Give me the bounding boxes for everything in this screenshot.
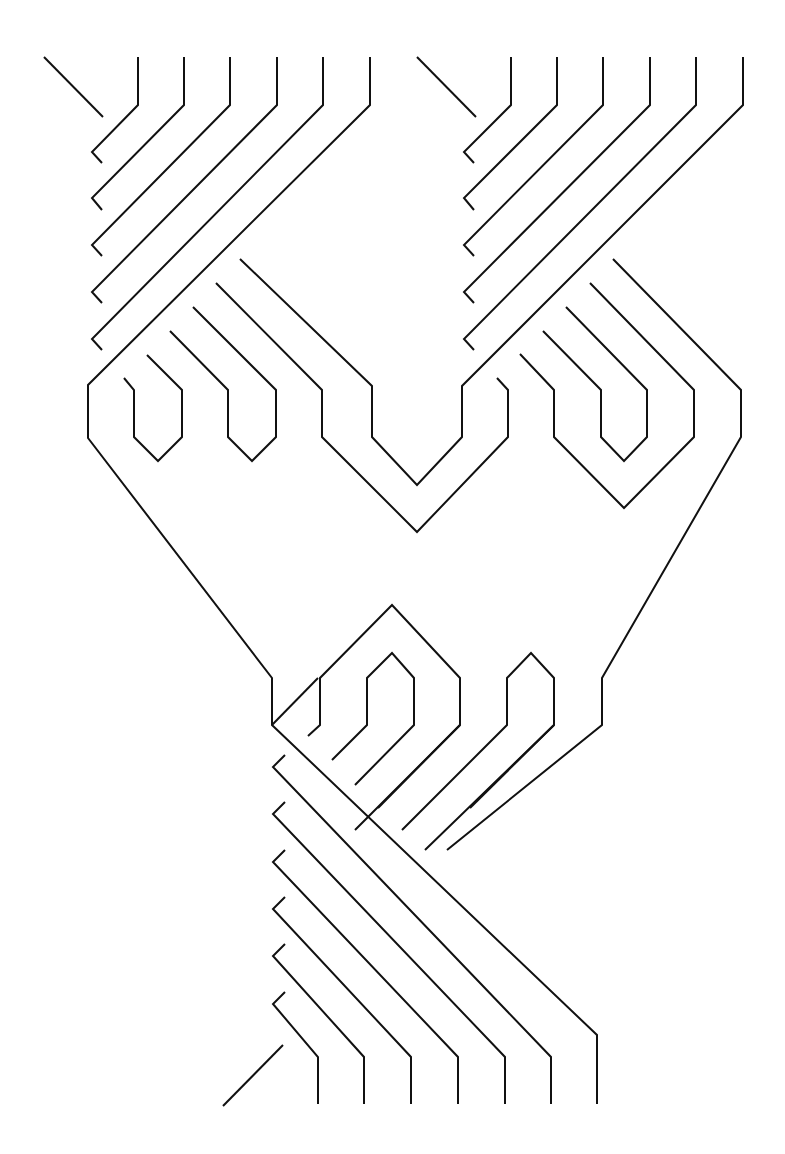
strand <box>447 259 741 850</box>
strand <box>216 283 508 532</box>
strand <box>273 897 411 1104</box>
strand <box>402 653 554 850</box>
strand <box>273 802 505 1104</box>
right-loops <box>447 259 741 850</box>
strand <box>273 850 458 1104</box>
strand <box>272 678 318 725</box>
strand <box>308 605 460 830</box>
strand <box>378 725 460 808</box>
bottom-bundle <box>223 678 551 1106</box>
lower-hexagon-loops <box>308 605 554 850</box>
strand <box>170 307 276 461</box>
top-right-bundle <box>240 57 743 485</box>
strand <box>92 57 138 163</box>
strand <box>88 57 597 1104</box>
strand <box>332 653 414 785</box>
strand <box>464 57 603 256</box>
left-loops <box>124 283 508 532</box>
strand <box>223 1045 283 1106</box>
top-left-bundle <box>44 57 597 1104</box>
strand <box>124 355 182 461</box>
strand <box>464 57 511 163</box>
strand <box>464 57 696 350</box>
strand <box>470 725 554 808</box>
strand <box>92 57 230 256</box>
strand <box>543 307 647 461</box>
strand <box>44 57 103 117</box>
strand <box>520 283 694 508</box>
strand <box>417 57 476 117</box>
braid-diagram <box>0 0 785 1154</box>
strand <box>240 57 743 485</box>
